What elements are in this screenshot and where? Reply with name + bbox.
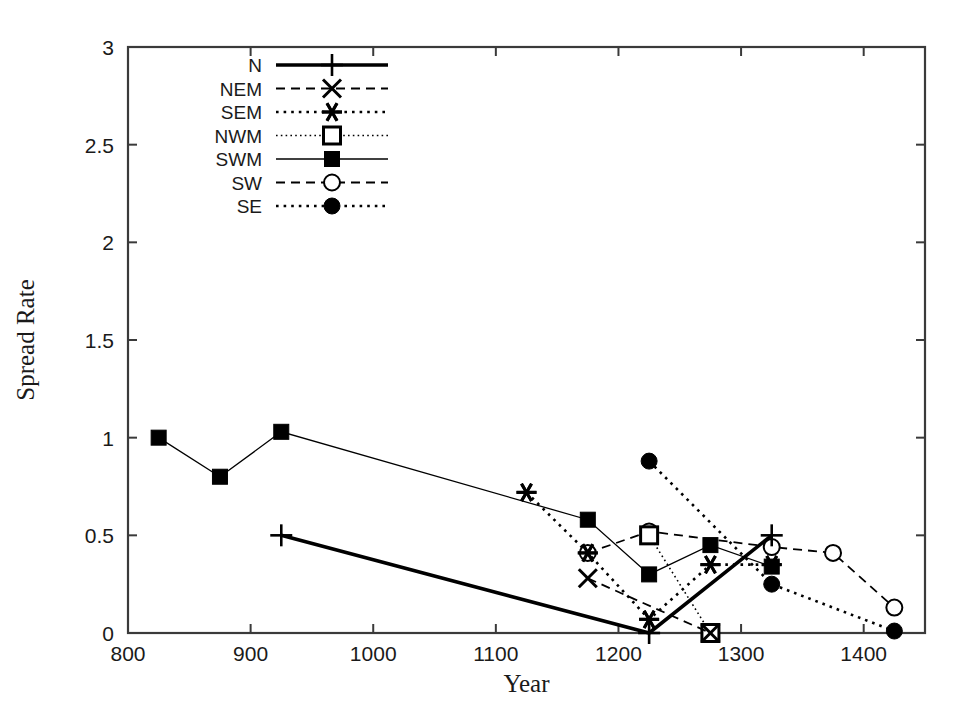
chart-container: 8009001000110012001300140000.511.522.53Y… xyxy=(0,0,971,717)
series-swm-marker-filled-square xyxy=(580,512,595,527)
y-axis-title: Spread Rate xyxy=(12,279,39,400)
legend-item-nem[interactable]: NEM xyxy=(220,79,388,100)
series-se-marker-filled-circle xyxy=(641,453,657,469)
series-sem-marker-star xyxy=(700,556,720,573)
legend-label-swm: SWM xyxy=(216,149,262,170)
series-swm-marker-filled-square xyxy=(703,538,718,553)
series-sw-marker-open-circle xyxy=(825,545,841,561)
legend-item-n[interactable]: N xyxy=(248,54,388,76)
legend-item-se[interactable]: SE xyxy=(237,196,388,217)
legend-sem-marker-star xyxy=(322,103,342,120)
legend-swm-marker-filled-square xyxy=(325,152,340,167)
x-axis-title: Year xyxy=(503,670,550,697)
y-axis-tick-label: 3 xyxy=(102,36,114,59)
legend-label-nem: NEM xyxy=(220,79,262,100)
legend: NNEMSEMNWMSWMSWSE xyxy=(215,54,388,217)
series-se-marker-filled-circle xyxy=(886,623,902,639)
series-line-sem xyxy=(527,492,772,619)
x-axis-tick-label: 1100 xyxy=(473,642,518,665)
y-axis-tick-label: 0.5 xyxy=(85,524,114,547)
series-swm-marker-filled-square xyxy=(212,469,227,484)
spread-rate-line-chart: 8009001000110012001300140000.511.522.53Y… xyxy=(0,0,971,717)
series-se-marker-filled-circle xyxy=(764,576,780,592)
y-axis-tick-label: 1 xyxy=(102,427,114,450)
y-axis-tick-label: 2 xyxy=(102,231,114,254)
series-line-swm xyxy=(159,432,772,575)
legend-item-swm[interactable]: SWM xyxy=(216,149,388,170)
legend-se-marker-filled-circle xyxy=(324,198,340,214)
y-axis-tick-label: 0 xyxy=(102,622,114,645)
series-nem-marker-cross xyxy=(579,569,597,587)
x-axis-tick-label: 1300 xyxy=(718,642,765,665)
series-line-n xyxy=(281,535,771,633)
series-line-sw xyxy=(588,531,895,607)
legend-label-sem: SEM xyxy=(221,102,262,123)
series-n-marker-plus xyxy=(270,524,292,546)
legend-label-sw: SW xyxy=(231,173,262,194)
legend-n-marker-plus xyxy=(321,54,343,76)
legend-label-se: SE xyxy=(237,196,262,217)
legend-sw-marker-open-circle xyxy=(324,175,340,191)
x-axis-tick-label: 1400 xyxy=(840,642,887,665)
series-sw xyxy=(580,523,903,615)
series-swm xyxy=(151,424,779,582)
series-nwm-marker-open-square xyxy=(641,527,658,544)
y-axis-tick-label: 1.5 xyxy=(85,329,114,352)
legend-label-n: N xyxy=(248,55,262,76)
x-axis-tick-label: 800 xyxy=(110,642,145,665)
legend-item-sw[interactable]: SW xyxy=(231,173,388,194)
series-swm-marker-filled-square xyxy=(151,430,166,445)
series-swm-marker-filled-square xyxy=(642,567,657,582)
series-sw-marker-open-circle xyxy=(886,600,902,616)
x-axis-tick-label: 1200 xyxy=(595,642,642,665)
series-swm-marker-filled-square xyxy=(274,424,289,439)
x-axis-tick-label: 1000 xyxy=(350,642,397,665)
legend-item-nwm[interactable]: NWM xyxy=(215,126,388,147)
y-axis-tick-label: 2.5 xyxy=(85,134,114,157)
legend-nwm-marker-open-square xyxy=(324,127,341,144)
legend-item-sem[interactable]: SEM xyxy=(221,102,388,123)
legend-label-nwm: NWM xyxy=(215,126,262,147)
x-axis-tick-label: 900 xyxy=(233,642,268,665)
